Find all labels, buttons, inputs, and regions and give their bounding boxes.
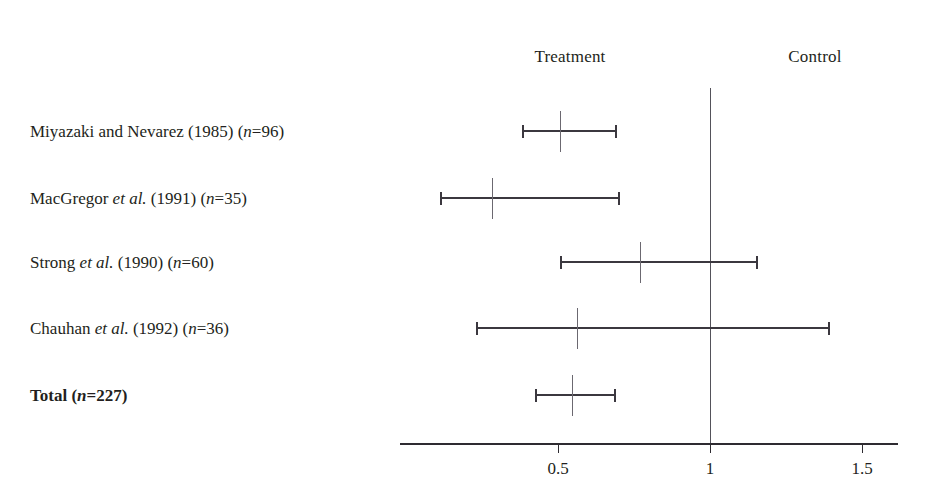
ci-cap-upper [615,125,617,138]
null-reference-line [710,88,711,443]
point-estimate-marker [572,375,573,416]
x-axis-tick-label-0.5: 0.5 [547,459,568,479]
point-estimate-marker [640,242,641,283]
x-axis-tick-1.5 [862,445,863,453]
study-label-strong-1990: Strong et al. (1990) (n=60) [30,254,214,271]
ci-cap-lower [535,389,537,402]
x-axis-tick-label-1: 1 [706,459,715,479]
ci-bar [522,130,617,132]
x-axis-tick-0.5 [558,445,559,453]
point-estimate-marker [577,308,578,349]
ci-cap-lower [522,125,524,138]
study-label-macgregor-1991: MacGregor et al. (1991) (n=35) [30,190,247,207]
ci-cap-upper [618,192,620,205]
ci-bar [535,394,616,396]
point-estimate-marker [560,111,561,152]
x-axis-line [400,443,898,445]
ci-cap-upper [756,256,758,269]
ci-cap-lower [560,256,562,269]
x-axis-tick-label-1.5: 1.5 [851,459,872,479]
ci-cap-lower [476,322,478,335]
study-label-chauhan-1992: Chauhan et al. (1992) (n=36) [30,320,229,337]
study-label-miyazaki-1985: Miyazaki and Nevarez (1985) (n=96) [30,123,284,140]
point-estimate-marker [492,178,493,219]
ci-cap-upper [614,389,616,402]
group-header-control: Control [788,47,841,67]
plot-area [0,0,928,502]
ci-bar [560,261,758,263]
x-axis-tick-1 [710,445,711,453]
ci-cap-upper [828,322,830,335]
study-label-total: Total (n=227) [30,387,127,404]
ci-bar [440,197,620,199]
ci-bar [476,327,830,329]
forest-plot-figure: Treatment Control Miyazaki and Nevarez (… [0,0,928,502]
group-header-treatment: Treatment [534,47,605,67]
ci-cap-lower [440,192,442,205]
